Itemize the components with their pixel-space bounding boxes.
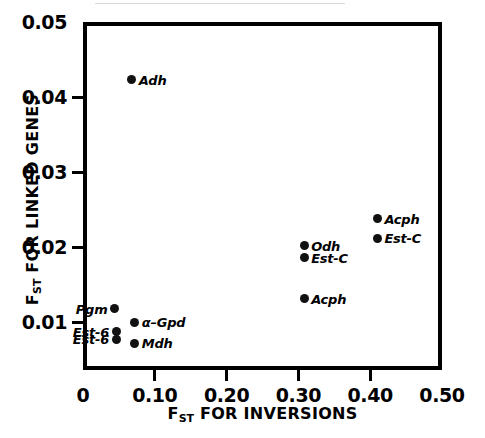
y-axis-tick [72, 96, 83, 99]
x-axis-tick-label: 0.40 [348, 384, 393, 406]
data-point-label: Est-6 [73, 332, 109, 347]
x-axis-title-text: FOR INVERSIONS [200, 404, 358, 423]
x-axis-tick [225, 370, 228, 381]
y-axis-tick [72, 321, 83, 324]
data-point-label: Acph [384, 211, 419, 226]
data-point-label: Est-C [384, 231, 421, 246]
x-axis-tick-label: 0.50 [419, 384, 464, 406]
data-point [130, 339, 139, 348]
x-axis-tick-label: 0.20 [204, 384, 249, 406]
y-axis-symbol: F [23, 294, 42, 305]
x-axis-tick-label: 0.10 [132, 384, 177, 406]
plot-area: 0.010.020.030.040.0500.100.200.300.400.5… [83, 22, 442, 370]
x-axis-symbol: F [167, 404, 178, 423]
y-axis-subscript: ST [31, 279, 44, 294]
data-point [373, 234, 382, 243]
x-axis-tick-label: 0 [77, 384, 90, 406]
data-point [112, 335, 121, 344]
data-point [300, 253, 309, 262]
x-axis-tick [153, 370, 156, 381]
y-axis-title-text: FOR LINKED GENES [23, 94, 42, 273]
scatter-plot-figure: 0.010.020.030.040.0500.100.200.300.400.5… [0, 0, 485, 438]
data-point [110, 304, 119, 313]
y-axis-tick-label: 0.05 [22, 11, 67, 33]
x-axis-tick [297, 370, 300, 381]
data-point-label: α–Gpd [142, 315, 186, 330]
data-point-label: Est-C [311, 250, 348, 265]
y-axis-title: FST FOR LINKED GENES [23, 35, 42, 365]
data-point-label: Mdh [142, 336, 173, 351]
y-axis-tick [72, 171, 83, 174]
data-point-label: Acph [311, 291, 346, 306]
x-axis-subscript: ST [179, 412, 194, 425]
data-point [130, 318, 139, 327]
data-point-label: Adh [139, 72, 167, 87]
data-point [300, 294, 309, 303]
data-point [300, 241, 309, 250]
y-axis-tick [72, 246, 83, 249]
x-axis-tick [369, 370, 372, 381]
data-point [127, 75, 136, 84]
data-point-label: Pgm [76, 301, 108, 316]
x-axis-title: FST FOR INVERSIONS [83, 404, 442, 423]
x-axis-tick-label: 0.30 [276, 384, 321, 406]
scan-artifact [95, 3, 345, 4]
data-point [373, 214, 382, 223]
